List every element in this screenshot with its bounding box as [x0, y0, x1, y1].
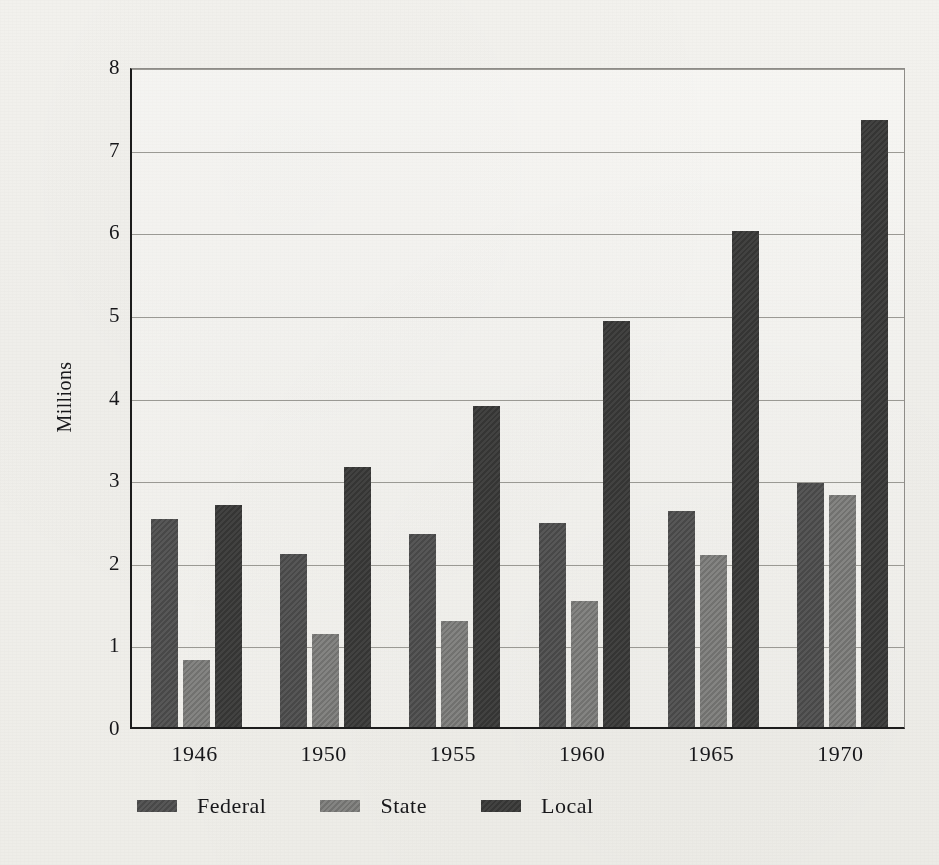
- y-tick-label-0: 0: [100, 716, 120, 741]
- bar-state-1950: [312, 634, 339, 727]
- bar-federal-1965: [668, 511, 695, 727]
- local-swatch-icon: [481, 800, 521, 812]
- y-tick-label-3: 3: [100, 468, 120, 493]
- legend-item-federal[interactable]: Federal: [137, 793, 266, 819]
- gridline-8: [132, 69, 904, 70]
- bar-local-1965: [732, 231, 759, 727]
- bar-local-1960: [603, 321, 630, 728]
- x-tick-label-1950: 1950: [301, 741, 347, 767]
- plot-area: [130, 68, 905, 729]
- bar-state-1955: [441, 621, 468, 727]
- gridline-3: [132, 482, 904, 483]
- legend-item-state[interactable]: State: [320, 793, 427, 819]
- gridline-1: [132, 647, 904, 648]
- y-tick-label-7: 7: [100, 138, 120, 163]
- bar-state-1960: [571, 601, 598, 727]
- x-tick-label-1965: 1965: [688, 741, 734, 767]
- x-tick-label-1946: 1946: [171, 741, 217, 767]
- bar-local-1946: [215, 505, 242, 727]
- bar-state-1946: [183, 660, 210, 727]
- gridline-6: [132, 234, 904, 235]
- y-tick-label-5: 5: [100, 303, 120, 328]
- gridline-5: [132, 317, 904, 318]
- bar-federal-1950: [280, 554, 307, 727]
- x-tick-label-1970: 1970: [817, 741, 863, 767]
- bar-federal-1970: [797, 483, 824, 727]
- bar-local-1970: [861, 120, 888, 727]
- gridline-2: [132, 565, 904, 566]
- gridline-7: [132, 152, 904, 153]
- bar-chart-figure: Millions 012345678 194619501955196019651…: [0, 0, 939, 865]
- x-tick-label-1960: 1960: [559, 741, 605, 767]
- scanned-page: Millions 012345678 194619501955196019651…: [0, 0, 939, 865]
- legend-label-federal: Federal: [197, 793, 266, 819]
- legend-item-local[interactable]: Local: [481, 793, 594, 819]
- y-tick-label-1: 1: [100, 633, 120, 658]
- bar-state-1970: [829, 495, 856, 727]
- y-tick-label-6: 6: [100, 220, 120, 245]
- y-tick-label-2: 2: [100, 551, 120, 576]
- state-swatch-icon: [320, 800, 360, 812]
- bar-federal-1946: [151, 519, 178, 727]
- bar-federal-1960: [539, 523, 566, 727]
- y-axis-title: Millions: [53, 362, 76, 433]
- legend-label-state: State: [380, 793, 427, 819]
- federal-swatch-icon: [137, 800, 177, 812]
- chart-legend: FederalStateLocal: [137, 793, 648, 819]
- bar-federal-1955: [409, 534, 436, 727]
- x-tick-label-1955: 1955: [430, 741, 476, 767]
- legend-label-local: Local: [541, 793, 594, 819]
- bar-local-1955: [473, 406, 500, 727]
- y-tick-label-4: 4: [100, 386, 120, 411]
- y-tick-label-8: 8: [100, 55, 120, 80]
- bar-local-1950: [344, 467, 371, 727]
- gridline-4: [132, 400, 904, 401]
- bar-state-1965: [700, 555, 727, 727]
